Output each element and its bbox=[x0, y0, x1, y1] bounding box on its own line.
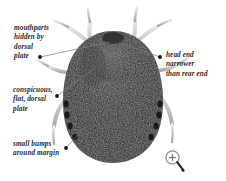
dot-dorsal-plate bbox=[55, 94, 59, 98]
mite-identification-figure: mouthparts hidden by dorsal plate conspi… bbox=[0, 0, 226, 181]
dot-head-end bbox=[158, 55, 162, 59]
callout-dorsal-plate: conspicuous, flat, dorsal plate bbox=[13, 86, 53, 114]
mouthparts-region bbox=[102, 32, 124, 44]
mite-body bbox=[63, 31, 163, 163]
dot-margin-bumps bbox=[64, 146, 68, 150]
magnifier-plus-icon[interactable] bbox=[163, 148, 187, 174]
callout-mouthparts: mouthparts hidden by dorsal plate bbox=[14, 24, 49, 62]
callout-margin-bumps: small bumps around margin bbox=[13, 140, 59, 159]
callout-head-end: head end narrower than rear end bbox=[166, 51, 208, 79]
